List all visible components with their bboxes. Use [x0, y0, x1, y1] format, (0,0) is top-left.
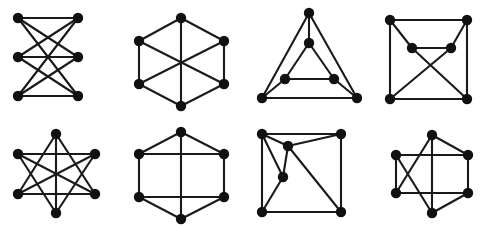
- graph-vertex: [257, 129, 267, 139]
- graph-vertex: [219, 192, 229, 202]
- graph-vertex: [463, 150, 473, 160]
- graph-vertex: [134, 79, 144, 89]
- graph-vertex: [73, 91, 83, 101]
- graph-vertex: [219, 79, 229, 89]
- graph-vertex: [13, 52, 23, 62]
- graph-vertex: [352, 93, 362, 103]
- graph-vertex: [304, 8, 314, 18]
- graph-vertex: [176, 214, 186, 224]
- graph-vertex: [257, 207, 267, 217]
- graph-vertex: [13, 149, 23, 159]
- graph-vertex: [176, 13, 186, 23]
- graph-vertex: [278, 172, 288, 182]
- graph-vertex: [336, 207, 346, 217]
- graph-vertex: [219, 149, 229, 159]
- graph-vertex: [176, 101, 186, 111]
- graph-vertex: [462, 15, 472, 25]
- graph-vertex: [134, 36, 144, 46]
- graph-vertex: [329, 74, 339, 84]
- graph-vertex: [391, 188, 401, 198]
- graph-vertex: [13, 13, 23, 23]
- graph-vertex: [385, 15, 395, 25]
- graph-vertex: [257, 93, 267, 103]
- graph-vertex: [304, 38, 314, 48]
- graph-vertex: [134, 192, 144, 202]
- graph-vertex: [73, 13, 83, 23]
- graph-vertex: [219, 36, 229, 46]
- graph-vertex: [73, 52, 83, 62]
- graph-vertex: [280, 74, 290, 84]
- graph-vertex: [427, 208, 437, 218]
- graph-vertex: [90, 189, 100, 199]
- graph-figure-canvas: [0, 0, 488, 226]
- graph-vertex: [462, 94, 472, 104]
- graph-vertex: [134, 149, 144, 159]
- graph-vertex: [90, 149, 100, 159]
- graph-vertex: [336, 129, 346, 139]
- graph-vertex: [51, 208, 61, 218]
- graph-vertex: [427, 130, 437, 140]
- graph-vertex: [13, 189, 23, 199]
- graph-vertex: [391, 150, 401, 160]
- graph-vertex: [385, 94, 395, 104]
- graph-vertex: [283, 141, 293, 151]
- graph-vertex: [446, 43, 456, 53]
- graph-vertex: [407, 43, 417, 53]
- graph-vertex: [463, 188, 473, 198]
- graph-vertex: [51, 129, 61, 139]
- graph-vertex: [13, 91, 23, 101]
- graph-vertex: [176, 127, 186, 137]
